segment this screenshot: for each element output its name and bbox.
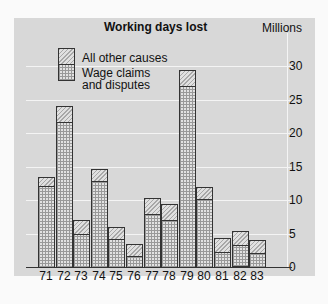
bar-77 xyxy=(144,198,161,267)
bar-segment-other xyxy=(92,170,107,181)
x-tick-label: 73 xyxy=(72,269,90,283)
bar-71 xyxy=(38,177,55,267)
x-tick-label: 77 xyxy=(143,269,161,283)
bar-segment-other xyxy=(180,71,195,86)
bar-80 xyxy=(196,187,213,267)
legend-swatch-other xyxy=(58,48,75,65)
bar-81 xyxy=(214,238,231,267)
bar-segment-wage xyxy=(57,122,72,267)
x-tick-label: 83 xyxy=(248,269,266,283)
bar-72 xyxy=(56,106,73,267)
bar-segment-wage xyxy=(109,239,124,267)
x-axis xyxy=(26,267,292,268)
y-axis-unit: Millions xyxy=(262,21,302,35)
bar-segment-wage xyxy=(162,220,177,267)
bar-75 xyxy=(108,227,125,267)
bar-segment-other xyxy=(197,188,212,199)
bar-segment-other xyxy=(74,221,89,234)
x-tick-label: 81 xyxy=(213,269,231,283)
bar-segment-other xyxy=(162,205,177,220)
legend-label-other: All other causes xyxy=(82,52,167,64)
bar-segment-other xyxy=(57,107,72,122)
legend-label-wage-2: and disputes xyxy=(82,79,150,91)
x-tick-label: 79 xyxy=(178,269,196,283)
x-tick-label: 71 xyxy=(37,269,55,283)
x-tick-label: 75 xyxy=(107,269,125,283)
bar-73 xyxy=(73,220,90,267)
bar-segment-other xyxy=(233,232,248,245)
y-tick-label: 30 xyxy=(289,59,302,73)
bar-74 xyxy=(91,169,108,267)
bar-segment-wage xyxy=(233,245,248,266)
x-tick-label: 74 xyxy=(90,269,108,283)
bar-82 xyxy=(232,231,249,267)
x-tick-label: 78 xyxy=(160,269,178,283)
bar-segment-wage xyxy=(127,256,142,267)
bar-segment-other xyxy=(109,228,124,239)
x-tick-label: 72 xyxy=(55,269,73,283)
bar-segment-wage xyxy=(39,186,54,267)
bar-segment-other xyxy=(127,245,142,256)
x-tick-label: 80 xyxy=(195,269,213,283)
x-tick-label: 76 xyxy=(125,269,143,283)
y-tick-label: 15 xyxy=(289,160,302,174)
bar-segment-other xyxy=(145,199,160,214)
bar-segment-other xyxy=(250,241,265,253)
chart-title: Working days lost xyxy=(104,20,207,34)
bar-78 xyxy=(161,204,178,267)
bar-segment-wage xyxy=(215,252,230,267)
bar-76 xyxy=(126,244,143,267)
bar-segment-other xyxy=(39,178,54,186)
bar-segment-wage xyxy=(145,214,160,267)
legend-swatch-wage xyxy=(58,64,75,81)
bar-segment-other xyxy=(215,239,230,252)
bar-83 xyxy=(249,240,266,267)
x-tick-label: 82 xyxy=(231,269,249,283)
y-tick-label: 25 xyxy=(289,93,302,107)
bar-segment-wage xyxy=(180,86,195,267)
bar-segment-wage xyxy=(74,234,89,267)
y-tick-label: 5 xyxy=(289,227,296,241)
y-tick-label: 10 xyxy=(289,193,302,207)
bar-segment-wage xyxy=(250,253,265,267)
bar-segment-wage xyxy=(197,199,212,267)
bar-segment-wage xyxy=(92,181,107,267)
bar-79 xyxy=(179,70,196,267)
y-tick-label: 20 xyxy=(289,126,302,140)
gridline xyxy=(26,100,292,101)
